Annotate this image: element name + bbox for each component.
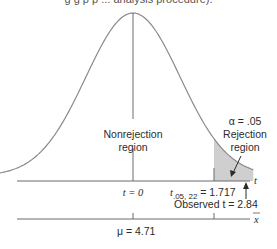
xbar-axis-label: x [253, 214, 259, 225]
rejection-label-2: region [230, 141, 259, 153]
nonrejection-label-2: region [118, 141, 147, 153]
observed-arrowhead [243, 182, 249, 189]
nonrejection-label-1: Nonrejection [104, 128, 163, 140]
alpha-label: α = .05 [229, 115, 262, 127]
mu-label: μ = 4.71 [117, 225, 156, 237]
rejection-label-1: Rejection [223, 128, 267, 140]
t-axis-label: t [254, 175, 258, 186]
observed-label: Observed t = 2.84 [174, 198, 258, 210]
t-zero-label: t = 0 [123, 187, 144, 198]
t-test-diagram: t x Nonrejection region α = .05 Rejectio… [0, 0, 277, 249]
